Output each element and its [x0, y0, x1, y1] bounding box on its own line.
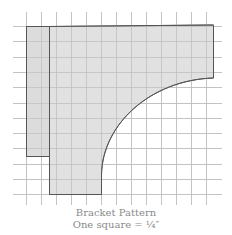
scale-label: One square = ¼″	[0, 219, 232, 231]
pattern-title: Bracket Pattern	[0, 207, 232, 219]
bracket-pattern-diagram	[0, 0, 232, 235]
back-strip	[27, 27, 50, 157]
